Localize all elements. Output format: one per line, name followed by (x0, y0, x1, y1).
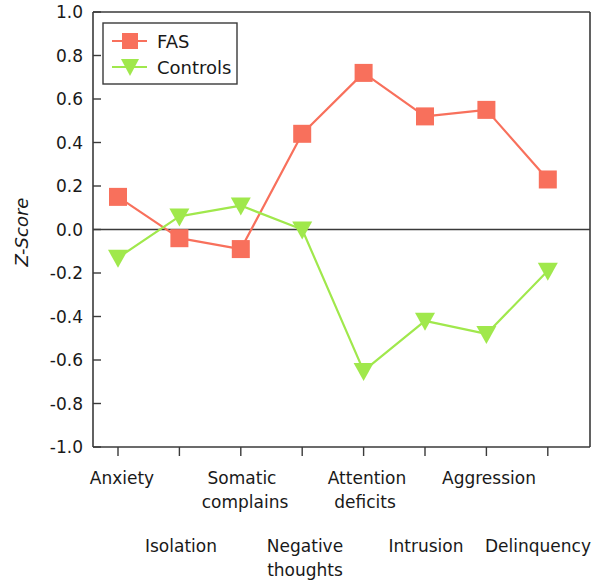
data-point-marker (477, 101, 495, 119)
y-tick-label: 0.6 (56, 89, 83, 109)
x-label-attention-line1: Attention (328, 468, 406, 488)
chart-figure: 1.00.80.60.40.20.0-0.2-0.4-0.6-0.8-1.0 Z… (0, 0, 603, 585)
x-label-delinquency: Delinquency (485, 536, 591, 556)
x-axis-labels-row-top: Anxiety Somatic complains Attention defi… (90, 468, 536, 512)
data-point-marker (108, 250, 128, 268)
y-tick-label: -1.0 (50, 437, 83, 457)
y-tick-label: 1.0 (56, 2, 83, 22)
x-label-negative-line1: Negative (267, 536, 343, 556)
x-label-negative-line2: thoughts (267, 560, 343, 580)
data-point-marker (416, 107, 434, 125)
data-point-marker (292, 222, 312, 240)
series-controls (108, 198, 558, 381)
x-axis-labels-row-bottom: Isolation Negative thoughts Intrusion De… (145, 536, 591, 580)
x-label-isolation: Isolation (145, 536, 217, 556)
legend-entry-controls[interactable]: Controls (112, 57, 231, 78)
x-label-attention-line2: deficits (334, 492, 396, 512)
x-axis-tick-marks (118, 447, 548, 456)
x-label-intrusion: Intrusion (389, 536, 464, 556)
y-tick-label: 0.8 (56, 46, 83, 66)
y-tick-label: -0.2 (50, 263, 83, 283)
data-point-marker (170, 229, 188, 247)
square-icon (122, 33, 138, 49)
legend-label-fas: FAS (157, 31, 189, 52)
data-point-marker (109, 188, 127, 206)
series-line (118, 73, 548, 249)
y-tick-label: 0.0 (56, 220, 83, 240)
data-point-marker (354, 363, 374, 381)
data-point-marker (232, 240, 250, 258)
y-tick-label: 0.2 (56, 176, 83, 196)
y-tick-label: -0.8 (50, 394, 83, 414)
data-point-marker (539, 170, 557, 188)
x-label-anxiety: Anxiety (90, 468, 154, 488)
y-tick-label: -0.4 (50, 307, 83, 327)
x-label-aggression: Aggression (442, 468, 536, 488)
data-series-layer (108, 64, 558, 381)
x-label-somatic-line2: complains (202, 492, 289, 512)
x-label-somatic-line1: Somatic (208, 468, 277, 488)
y-axis-title: Z-Score (11, 198, 32, 268)
data-point-marker (169, 208, 189, 226)
data-point-marker (476, 326, 496, 344)
y-axis-tick-marks (93, 12, 101, 447)
z-score-line-chart: 1.00.80.60.40.20.0-0.2-0.4-0.6-0.8-1.0 Z… (0, 0, 603, 585)
legend: FAS Controls (103, 23, 237, 84)
data-point-marker (355, 64, 373, 82)
y-tick-label: 0.4 (56, 133, 83, 153)
y-axis-tick-labels: 1.00.80.60.40.20.0-0.2-0.4-0.6-0.8-1.0 (50, 2, 83, 457)
legend-label-controls: Controls (157, 57, 231, 78)
data-point-marker (293, 125, 311, 143)
y-tick-label: -0.6 (50, 350, 83, 370)
